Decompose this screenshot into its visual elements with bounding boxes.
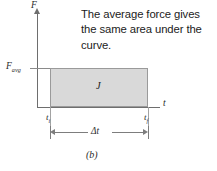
f-avg-label: Favg <box>6 61 21 73</box>
x-axis-label: t <box>163 98 166 108</box>
annotation-line-3: curve. <box>81 38 213 53</box>
x-axis-line <box>37 107 160 108</box>
delta-t-cap-right <box>148 126 149 139</box>
annotation-text: The average force gives the same area un… <box>81 7 213 53</box>
figure-caption: (b) <box>86 149 98 160</box>
delta-t-label: Δt <box>89 126 101 136</box>
y-axis-line <box>37 12 38 108</box>
delta-t-cap-left <box>50 126 51 139</box>
impulse-average-force-figure: The average force gives the same area un… <box>0 0 217 171</box>
t-initial-subscript: i <box>49 118 51 124</box>
y-axis-label: F <box>31 0 37 10</box>
f-avg-level-line <box>30 68 51 69</box>
t-final-subscript: f <box>147 118 149 124</box>
annotation-line-1: The average force gives <box>81 7 213 22</box>
annotation-line-2: the same area under the <box>81 22 213 37</box>
x-tick-label-t-final: tf <box>144 112 148 124</box>
impulse-area-label: J <box>96 80 101 91</box>
f-avg-label-subscript: avg <box>12 66 21 73</box>
x-tick-label-t-initial: ti <box>46 112 50 124</box>
